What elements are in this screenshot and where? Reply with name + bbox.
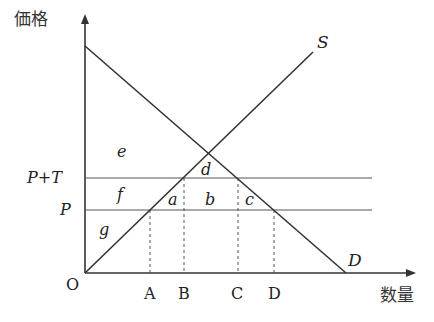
y-axis-label: 価格 (14, 9, 48, 29)
region-e-label: e (117, 142, 126, 161)
origin-label: O (66, 275, 79, 294)
supply-label: S (317, 32, 329, 52)
price-label-p: P (59, 200, 71, 219)
quantity-label-d: D (268, 284, 281, 303)
region-b-label: b (205, 190, 215, 209)
supply-curve (85, 52, 313, 273)
region-g-label: g (99, 220, 109, 239)
region-c-label: c (245, 190, 254, 209)
quantity-label-a: A (143, 284, 156, 303)
supply-demand-diagram: 価格 数量 O S D P+T P A B C D e f g d a b c (0, 0, 434, 322)
quantity-label-c: C (231, 284, 243, 303)
quantity-label-b: B (178, 284, 190, 303)
region-f-label: f (116, 185, 126, 204)
x-axis-label: 数量 (380, 285, 414, 305)
region-d-label: d (201, 160, 211, 179)
region-a-label: a (168, 190, 178, 209)
price-label-p-plus-t: P+T (26, 168, 63, 187)
demand-label: D (347, 250, 362, 270)
